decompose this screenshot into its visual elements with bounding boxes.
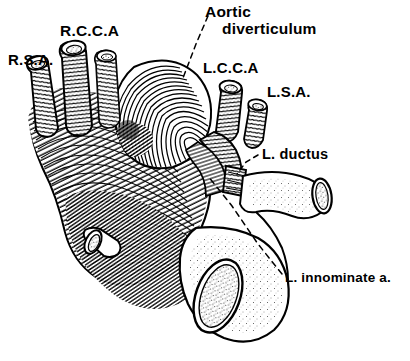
left-subclavian-artery — [244, 98, 268, 148]
label-aortic-diverticulum-line2: diverticulum — [205, 20, 317, 37]
anatomy-illustration — [0, 0, 410, 361]
accessory-branch-vessel — [95, 50, 120, 128]
label-aortic-diverticulum: Aortic diverticulum — [205, 3, 317, 38]
label-left-subclavian-artery: L.S.A. — [267, 84, 311, 101]
label-right-common-carotid-artery: R.C.C.A — [60, 22, 119, 39]
label-left-innominate-artery: L. innominate a. — [285, 270, 391, 285]
label-right-subclavian-artery: R.S.A. — [8, 52, 53, 69]
anatomical-figure: R.S.A. R.C.C.A Aortic diverticulum L.C.C… — [0, 0, 410, 361]
illustration-ink — [20, 16, 334, 342]
label-left-common-carotid-artery: L.C.C.A — [203, 60, 259, 77]
left-innominate-artery — [180, 227, 289, 341]
label-aortic-diverticulum-line1: Aortic — [205, 3, 251, 20]
label-left-ductus: L. ductus — [262, 146, 328, 162]
